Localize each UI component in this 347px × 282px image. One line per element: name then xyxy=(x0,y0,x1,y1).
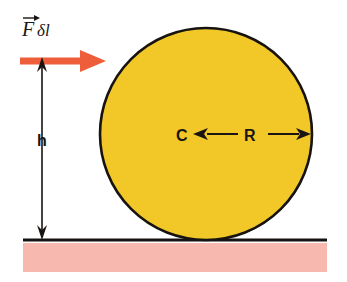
physics-diagram-canvas: F δl h C R xyxy=(0,0,347,282)
height-label: h xyxy=(37,132,47,149)
diagram-svg: F δl h C R xyxy=(0,0,347,282)
applied-force-arrow-head xyxy=(80,50,106,72)
center-label: C xyxy=(176,127,188,144)
applied-force-arrow xyxy=(20,50,106,72)
force-label-symbol: F xyxy=(21,18,35,40)
radius-label: R xyxy=(244,127,256,144)
force-label-suffix: δl xyxy=(37,21,50,40)
ground-band xyxy=(23,243,327,272)
